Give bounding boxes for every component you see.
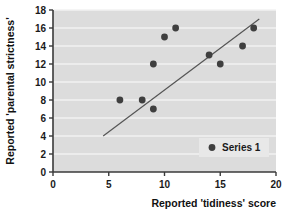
y-axis-title: Reported 'parental strictness' [4, 17, 16, 164]
data-point [250, 25, 257, 32]
x-axis-tick-label: 10 [159, 179, 171, 190]
scatter-chart: 02468101214161805101520Reported 'tidines… [0, 0, 295, 213]
y-axis-tick-label: 14 [35, 41, 47, 52]
data-point [239, 43, 246, 50]
y-axis-tick-label: 2 [40, 149, 46, 160]
y-axis-tick-label: 8 [40, 95, 46, 106]
x-axis-tick-label: 20 [270, 179, 282, 190]
data-point [172, 25, 179, 32]
y-axis-tick-label: 0 [40, 167, 46, 178]
data-point [139, 97, 146, 104]
y-axis-tick-label: 16 [35, 23, 47, 34]
legend-marker-icon [209, 144, 216, 151]
x-axis-tick-label: 0 [50, 179, 56, 190]
y-axis-tick-label: 18 [35, 5, 47, 16]
data-point [161, 34, 168, 41]
x-axis-tick-label: 15 [215, 179, 227, 190]
x-axis-title: Reported 'tidiness' score [151, 197, 276, 209]
y-axis-tick-label: 10 [35, 77, 47, 88]
data-point [217, 61, 224, 68]
chart-canvas: 02468101214161805101520Reported 'tidines… [0, 0, 295, 213]
x-axis-tick-label: 5 [106, 179, 112, 190]
data-point [150, 106, 157, 113]
y-axis-tick-label: 4 [40, 131, 46, 142]
y-axis-tick-label: 6 [40, 113, 46, 124]
data-point [206, 52, 213, 59]
legend-label: Series 1 [222, 142, 261, 153]
data-point [150, 61, 157, 68]
data-point [117, 97, 124, 104]
y-axis-tick-label: 12 [35, 59, 47, 70]
